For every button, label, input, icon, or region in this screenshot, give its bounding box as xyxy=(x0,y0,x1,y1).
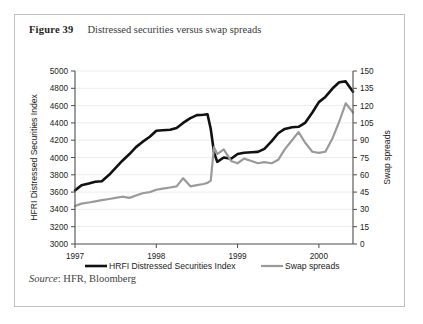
y-axis-title: HFRI Distressed Securities Index xyxy=(29,94,39,221)
source-label: Source xyxy=(29,273,58,284)
y2-axis-title: Swap spreads xyxy=(382,130,392,184)
source-text: : HFR, Bloomberg xyxy=(58,273,136,284)
y-tick-label: 3400 xyxy=(50,205,69,214)
series-line-swap-spreads xyxy=(75,103,353,206)
y2-tick-label: 90 xyxy=(360,136,370,145)
x-tick-label: 1999 xyxy=(228,252,247,261)
axes-group xyxy=(71,71,357,248)
y2-tick-label: 75 xyxy=(360,154,370,163)
chart-plot: 3000320034003600380040004200440046004800… xyxy=(15,33,406,273)
figure-card: Figure 39Distressed securities versus sw… xyxy=(14,14,405,307)
y2-tick-label: 120 xyxy=(360,102,374,111)
legend-label-swap-spreads: Swap spreads xyxy=(285,261,339,271)
y-tick-label: 3800 xyxy=(50,171,69,180)
y-tick-label: 4600 xyxy=(50,102,69,111)
y2-tick-label: 45 xyxy=(360,188,370,197)
y2-tick-label: 15 xyxy=(360,223,370,232)
y-tick-label: 4800 xyxy=(50,84,69,93)
y-tick-label: 3000 xyxy=(50,240,69,249)
x-tick-label: 1997 xyxy=(66,252,85,261)
x-tick-label: 1998 xyxy=(147,252,166,261)
y2-tick-label: 30 xyxy=(360,205,370,214)
y2-tick-label: 150 xyxy=(360,67,374,76)
axis-labels-group: 3000320034003600380040004200440046004800… xyxy=(29,67,392,261)
series-line-hrfi-distressed-securities-index xyxy=(75,81,353,190)
chart-legend: HRFI Distressed Securities IndexSwap spr… xyxy=(85,261,339,271)
y-tick-label: 3600 xyxy=(50,188,69,197)
y2-tick-label: 60 xyxy=(360,171,370,180)
x-tick-label: 2000 xyxy=(310,252,329,261)
source-note: Source: HFR, Bloomberg xyxy=(29,273,136,284)
data-series-group xyxy=(75,81,353,206)
y2-tick-label: 135 xyxy=(360,84,374,93)
y2-tick-label: 105 xyxy=(360,119,374,128)
y-tick-label: 4200 xyxy=(50,136,69,145)
y2-tick-label: 0 xyxy=(360,240,365,249)
y-tick-label: 5000 xyxy=(50,67,69,76)
legend-label-hrfi-distressed-securities-index: HRFI Distressed Securities Index xyxy=(109,261,236,271)
y-tick-label: 3200 xyxy=(50,223,69,232)
y-tick-label: 4000 xyxy=(50,154,69,163)
y-tick-label: 4400 xyxy=(50,119,69,128)
